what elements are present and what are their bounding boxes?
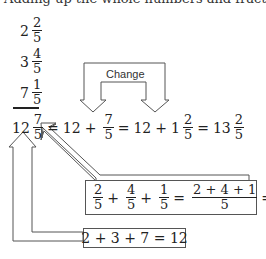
frac-sum: 2 + 4 + 15 bbox=[192, 183, 257, 212]
equals-1: = bbox=[47, 120, 59, 136]
addend-3-fraction: 15 bbox=[32, 78, 42, 107]
whole-sum-expression: 2 + 3 + 7 = 12 bbox=[81, 230, 187, 246]
step3-whole: 12 bbox=[133, 120, 151, 136]
final-whole: 13 bbox=[213, 120, 231, 136]
eq-a: = bbox=[173, 190, 185, 206]
addend-1-whole: 2 bbox=[20, 23, 29, 39]
plus-sign-2: + bbox=[155, 120, 167, 136]
frac-b: 45 bbox=[126, 183, 136, 212]
addend-2-whole: 3 bbox=[20, 54, 29, 70]
eq-b: = bbox=[261, 190, 266, 206]
result-equation: 12 75 = 12 + 75 = 12 + 1 25 = 13 25 bbox=[12, 113, 244, 142]
whole-sum-box: 2 + 3 + 7 = 12 bbox=[83, 228, 186, 248]
frac-c: 15 bbox=[159, 183, 169, 212]
step2-fraction: 75 bbox=[103, 113, 113, 142]
frac-a: 25 bbox=[93, 183, 103, 212]
addend-3: 7 15 bbox=[20, 78, 42, 107]
addend-3-whole: 7 bbox=[20, 85, 29, 101]
addend-2-fraction: 45 bbox=[32, 47, 42, 76]
result-whole: 12 bbox=[12, 120, 30, 136]
equals-2: = bbox=[118, 120, 130, 136]
plus-sign: + bbox=[85, 120, 97, 136]
step3-fraction: 25 bbox=[183, 113, 193, 142]
addend-1: 2 25 bbox=[20, 16, 42, 45]
plus-a: + bbox=[107, 190, 119, 206]
change-label: Change bbox=[106, 68, 145, 80]
fraction-sum-box: 25 + 45 + 15 = 2 + 4 + 15 = 75 bbox=[85, 180, 257, 215]
sum-rule bbox=[13, 107, 39, 109]
plus-b: + bbox=[140, 190, 152, 206]
step2-whole: 12 bbox=[63, 120, 81, 136]
equals-3: = bbox=[197, 120, 209, 136]
addend-1-fraction: 25 bbox=[32, 16, 42, 45]
step3-carry: 1 bbox=[171, 120, 180, 136]
final-fraction: 25 bbox=[234, 113, 244, 142]
addend-2: 3 45 bbox=[20, 47, 42, 76]
result-fraction: 75 bbox=[33, 113, 43, 142]
